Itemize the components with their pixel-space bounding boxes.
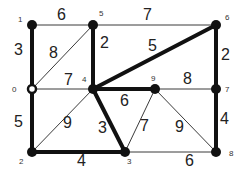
- edge-weight-9-8: 9: [175, 118, 184, 135]
- node-3: [120, 147, 130, 157]
- node-label-2: 2: [19, 157, 24, 166]
- edge-weight-2-3: 4: [77, 152, 86, 169]
- edge-weight-0-5: 8: [49, 44, 58, 61]
- edge-weight-5-6: 7: [143, 6, 152, 23]
- weighted-graph: 673825276859379446 0123456789: [0, 0, 246, 176]
- edge-weight-6-7: 2: [221, 46, 230, 63]
- node-label-4: 4: [82, 75, 87, 84]
- edge-weight-4-3: 3: [98, 119, 107, 136]
- node-label-6: 6: [225, 13, 230, 22]
- edge-weight-9-7: 8: [183, 70, 192, 87]
- node-label-5: 5: [99, 9, 104, 18]
- node-label-1: 1: [18, 15, 23, 24]
- edge-weight-0-2: 5: [14, 113, 23, 130]
- node-label-3: 3: [127, 157, 132, 166]
- edge-weight-2-4: 9: [63, 114, 72, 131]
- node-5: [88, 20, 98, 30]
- edge-weight-3-8: 6: [185, 152, 194, 169]
- node-label-8: 8: [229, 149, 234, 158]
- edge-weight-4-6: 5: [148, 37, 157, 54]
- node-0: [28, 85, 36, 93]
- node-8: [211, 147, 221, 157]
- edge-weight-0-4: 7: [64, 71, 73, 88]
- edge-weight-1-0: 3: [14, 41, 23, 58]
- node-4: [88, 84, 98, 94]
- node-label-0: 0: [12, 85, 17, 94]
- node-6: [211, 20, 221, 30]
- node-9: [150, 84, 160, 94]
- edge-weight-4-9: 6: [120, 92, 129, 109]
- node-7: [211, 84, 221, 94]
- edge-weight-1-5: 6: [57, 6, 66, 23]
- node-1: [27, 20, 37, 30]
- edge-weight-7-8: 4: [220, 110, 229, 127]
- edge-9-8: [155, 89, 216, 152]
- edge-weight-5-4: 2: [100, 34, 109, 51]
- edge-weight-9-3: 7: [140, 117, 149, 134]
- node-label-9: 9: [151, 74, 156, 83]
- edges-layer: [32, 25, 216, 152]
- node-label-7: 7: [225, 85, 230, 94]
- node-2: [27, 147, 37, 157]
